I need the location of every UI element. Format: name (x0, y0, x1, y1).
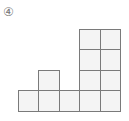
grid-square (59, 90, 80, 112)
grid-square (18, 90, 39, 112)
grid-square (79, 70, 101, 91)
grid-square (100, 70, 121, 91)
grid-square (38, 90, 60, 112)
problem-number: ④ (3, 5, 14, 19)
grid-square (79, 49, 101, 71)
grid-square (100, 90, 121, 112)
grid-square (79, 90, 101, 112)
grid-square (100, 29, 121, 50)
grid-square (79, 29, 101, 50)
grid-square (38, 70, 60, 91)
grid-square (100, 49, 121, 71)
